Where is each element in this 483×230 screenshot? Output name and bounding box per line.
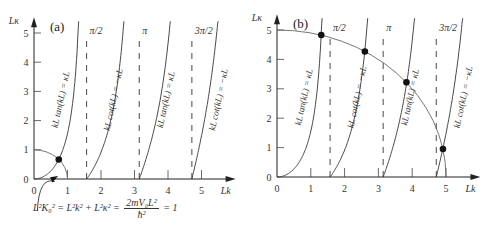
y-tick-label: 5: [267, 25, 272, 36]
panel-a: 012345012345LκLk(a)π/2π3π/2kL tan(kL) = …: [8, 15, 236, 211]
x-tick-label: 5: [444, 183, 449, 194]
asymptote-label: π/2: [333, 22, 346, 33]
y-axis-arrow-icon: [274, 14, 280, 24]
y-tick-label: 3: [24, 86, 29, 97]
x-tick-label: 0: [32, 185, 37, 196]
panel-label: (b): [293, 16, 308, 31]
panel-label: (a): [50, 19, 64, 34]
x-tick-label: 5: [199, 185, 204, 196]
x-tick-label: 1: [65, 185, 70, 196]
asymptote-label: π: [386, 22, 392, 33]
equation-rhs: = 1: [163, 202, 177, 213]
x-axis-arrow-icon: [470, 174, 480, 180]
circle-equation: L²K₀² = L²k² + L²κ² = 2mV₀L² ħ² = 1: [33, 197, 177, 220]
intersection-point: [440, 146, 447, 153]
curve-label: kL cot(kL) = −κL: [452, 65, 475, 129]
y-tick-label: 2: [267, 113, 272, 124]
x-tick-label: 2: [99, 185, 104, 196]
asymptote-label: 3π/2: [194, 25, 213, 36]
x-axis-label: Lk: [220, 185, 232, 196]
x-tick-label: 2: [342, 183, 347, 194]
y-axis-label: Lκ: [251, 12, 263, 23]
intersection-point: [403, 79, 410, 86]
x-tick-label: 3: [132, 185, 137, 196]
curve-label: kL tan(kL) = κL: [399, 68, 421, 126]
equation-denominator: ħ²: [124, 209, 158, 220]
x-tick-label: 0: [275, 183, 280, 194]
y-tick-label: 2: [24, 115, 29, 126]
equation-numerator: 2mV₀L²: [124, 197, 158, 209]
y-tick-label: 3: [267, 83, 272, 94]
intersection-point: [318, 32, 325, 39]
y-axis-arrow-icon: [31, 17, 37, 27]
x-axis-arrow-icon: [226, 176, 236, 182]
y-tick-label: 0: [267, 172, 272, 183]
curve-label: kL tan(kL) = κL: [293, 68, 315, 126]
curve-label: kL tan(kL) = κL: [50, 70, 72, 128]
equation-fraction: 2mV₀L² ħ²: [124, 197, 158, 220]
curve-label: kL cot(kL) = −κL: [346, 65, 369, 129]
eigenvalue-graphical-solution-figure: 012345012345LκLk(a)π/2π3π/2kL tan(kL) = …: [0, 0, 483, 230]
y-tick-label: 4: [267, 54, 272, 65]
panel-b: 012345012345LκLk(b)π/2π3π/2kL tan(kL) = …: [251, 12, 481, 194]
asymptote-label: π: [142, 25, 148, 36]
y-axis-label: Lκ: [8, 15, 20, 26]
y-tick-label: 4: [24, 57, 29, 68]
curve-label: kL tan(kL) = κL: [155, 70, 177, 128]
intersection-point: [362, 48, 369, 55]
x-tick-label: 3: [376, 183, 381, 194]
x-tick-label: 1: [308, 183, 313, 194]
x-tick-label: 4: [166, 185, 171, 196]
asymptote-label: π/2: [90, 25, 103, 36]
y-tick-label: 5: [24, 28, 29, 39]
transcendental-curve: [330, 18, 368, 177]
transcendental-curve: [87, 21, 124, 179]
x-tick-label: 4: [410, 183, 415, 194]
equation-lhs: L²K₀² = L²k² + L²κ² =: [33, 202, 120, 213]
y-tick-label: 1: [24, 144, 29, 155]
asymptote-label: 3π/2: [438, 22, 457, 33]
curve-label: kL cot(kL) = −κL: [207, 68, 230, 132]
curve-label: kL cot(kL) = −κL: [102, 68, 125, 132]
x-axis-label: Lk: [464, 183, 476, 194]
intersection-point: [55, 156, 62, 163]
circle-arc: [34, 150, 68, 179]
y-tick-label: 0: [24, 174, 29, 185]
y-tick-label: 1: [267, 142, 272, 153]
